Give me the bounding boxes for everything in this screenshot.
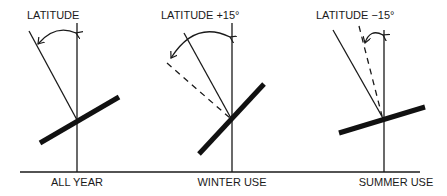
panel-bottom-label: SUMMER USE bbox=[359, 176, 434, 188]
summer-angle-dashed-line bbox=[359, 26, 382, 116]
panel-all-year: LATITUDE ALL YEAR bbox=[27, 9, 119, 188]
angle-arc-arrow bbox=[38, 30, 76, 44]
tilt-angle-diagram: LATITUDE ALL YEAR LATITUDE +15° WINTER U… bbox=[0, 0, 447, 196]
angle-arc-arrow bbox=[171, 32, 230, 58]
latitude-angle-line bbox=[29, 31, 77, 120]
panel-summer-use: LATITUDE −15° SUMMER USE bbox=[316, 9, 433, 188]
panel-bottom-label: WINTER USE bbox=[197, 176, 266, 188]
panel-top-label: LATITUDE +15° bbox=[161, 9, 239, 21]
panel-top-label: LATITUDE bbox=[27, 9, 79, 21]
latitude-angle-line bbox=[184, 33, 232, 120]
panel-winter-use: LATITUDE +15° WINTER USE bbox=[161, 9, 267, 188]
solar-panel bbox=[339, 107, 425, 133]
latitude-angle-line bbox=[333, 30, 384, 120]
panel-bottom-label: ALL YEAR bbox=[51, 176, 103, 188]
solar-panel bbox=[40, 97, 119, 143]
panel-top-label: LATITUDE −15° bbox=[316, 9, 394, 21]
winter-angle-dashed-line bbox=[167, 63, 230, 118]
angle-arc-arrow bbox=[365, 33, 383, 43]
